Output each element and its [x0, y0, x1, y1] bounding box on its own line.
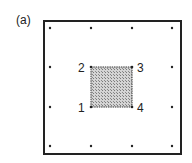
node-label-1: 1 [78, 101, 85, 115]
grid-dot [171, 106, 173, 108]
node-dot [131, 66, 134, 69]
panel-label: (a) [16, 13, 31, 27]
shaded-element [91, 67, 132, 107]
node-dot [131, 106, 134, 109]
grid-dot [90, 145, 92, 147]
node-label-4: 4 [137, 101, 144, 115]
grid-dot [49, 145, 51, 147]
grid-dot [171, 66, 173, 68]
grid-dot [49, 106, 51, 108]
grid-dot [131, 27, 133, 29]
node-dot [90, 106, 93, 109]
grid-dot [131, 145, 133, 147]
node-dot [90, 66, 93, 69]
grid-dot [49, 27, 51, 29]
diagram-canvas: (a) 2 3 1 4 [0, 0, 192, 163]
node-label-2: 2 [78, 61, 85, 75]
node-label-3: 3 [137, 61, 144, 75]
grid-dot [171, 27, 173, 29]
grid-dot [171, 145, 173, 147]
grid-dot [49, 66, 51, 68]
grid-dot [90, 27, 92, 29]
